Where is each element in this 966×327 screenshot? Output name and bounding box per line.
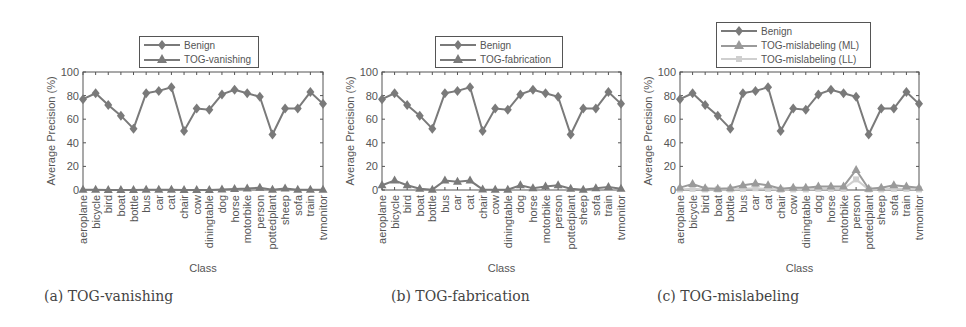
series-tog-fabrication	[378, 176, 626, 193]
y-tick-label: 80	[366, 90, 378, 102]
x-tick-label: horse	[229, 195, 241, 223]
x-tick-label: chair	[178, 195, 190, 219]
x-tick-label: bicycle	[90, 195, 102, 229]
y-tick-label: 60	[664, 113, 676, 125]
x-tick-label: bus	[737, 195, 749, 213]
x-tick-label: aeroplane	[376, 195, 388, 244]
y-tick-label: 100	[658, 66, 676, 78]
x-tick-label: cat	[165, 195, 177, 210]
y-tick-label: 80	[664, 90, 676, 102]
triangle-marker-icon	[144, 54, 180, 64]
x-tick-label: aeroplane	[674, 195, 686, 244]
x-tick-label: tvmonitor	[913, 195, 925, 241]
x-tick-label: sheep	[875, 195, 887, 225]
x-tick-label: diningtable	[502, 195, 514, 248]
legend-c: Benign TOG-mislabeling (ML) TOG-mislabel…	[716, 22, 871, 68]
axes: 020406080100aeroplanebicyclebirdboatbott…	[642, 66, 925, 274]
x-tick-label: pottedplant	[266, 195, 278, 249]
x-axis-label: Class	[488, 262, 516, 274]
x-tick-label: bus	[140, 195, 152, 213]
caption-c: (c) TOG-mislabeling	[657, 288, 799, 304]
x-tick-label: bottle	[128, 195, 140, 222]
x-tick-label: diningtable	[800, 195, 812, 248]
x-tick-label: motorbike	[241, 195, 253, 243]
panel-a: 020406080100aeroplanebicyclebirdboatbott…	[0, 0, 330, 327]
x-tick-label: bus	[439, 195, 451, 213]
y-axis-label: Average Precision (%)	[344, 76, 356, 185]
x-axis-label: Class	[786, 262, 814, 274]
x-tick-label: sofa	[888, 194, 900, 216]
diamond-marker-icon	[440, 40, 476, 50]
legend-b: Benign TOG-fabrication	[435, 36, 563, 68]
y-axis-label: Average Precision (%)	[45, 76, 57, 185]
x-tick-label: bird	[699, 195, 711, 213]
y-tick-label: 60	[366, 113, 378, 125]
diamond-marker-icon	[144, 40, 180, 50]
x-tick-label: chair	[775, 195, 787, 219]
x-tick-label: sofa	[292, 194, 304, 216]
series-benign	[378, 82, 625, 139]
x-tick-label: person	[850, 195, 862, 229]
x-tick-label: cat	[464, 195, 476, 210]
y-tick-label: 80	[67, 90, 79, 102]
x-tick-label: bird	[401, 195, 413, 213]
y-tick-label: 0	[670, 184, 676, 196]
x-tick-label: person	[254, 195, 266, 229]
x-tick-label: motorbike	[838, 195, 850, 243]
series-benign	[79, 82, 327, 139]
x-tick-label: train	[304, 195, 316, 216]
x-tick-label: horse	[527, 195, 539, 223]
y-tick-label: 20	[664, 160, 676, 172]
x-tick-label: dog	[812, 195, 824, 213]
square-marker-icon	[721, 54, 757, 64]
diamond-marker-icon	[721, 26, 757, 36]
x-tick-label: train	[900, 195, 912, 216]
y-tick-label: 60	[67, 113, 79, 125]
x-tick-label: motorbike	[540, 195, 552, 243]
x-tick-label: sheep	[279, 195, 291, 225]
x-tick-label: bottle	[426, 195, 438, 222]
x-tick-label: train	[602, 195, 614, 216]
legend-item-tog-mislabeling-ll: TOG-mislabeling (LL)	[721, 52, 866, 66]
legend-item-tog-mislabeling-ml: TOG-mislabeling (ML)	[721, 38, 866, 52]
series-tog-mislabeling-ml	[676, 165, 924, 192]
axes: 020406080100aeroplanebicyclebirdboatbott…	[344, 66, 627, 274]
y-tick-label: 100	[61, 66, 79, 78]
x-tick-label: bird	[102, 195, 114, 213]
x-tick-label: car	[749, 195, 761, 211]
triangle-marker-icon	[721, 40, 757, 50]
x-tick-label: dog	[216, 195, 228, 213]
x-tick-label: boat	[712, 195, 724, 216]
x-tick-label: bicycle	[389, 195, 401, 229]
x-tick-label: sofa	[590, 194, 602, 216]
x-tick-label: dog	[514, 195, 526, 213]
x-tick-label: cow	[191, 195, 203, 215]
x-tick-label: aeroplane	[77, 195, 89, 244]
x-axis-label: Class	[189, 262, 217, 274]
y-tick-label: 20	[67, 160, 79, 172]
caption-b: (b) TOG-fabrication	[391, 288, 530, 304]
x-tick-label: diningtable	[203, 195, 215, 248]
x-tick-label: cow	[787, 195, 799, 215]
x-tick-label: tvmonitor	[317, 195, 329, 241]
y-tick-label: 100	[360, 66, 378, 78]
y-tick-label: 0	[73, 184, 79, 196]
y-tick-label: 40	[664, 137, 676, 149]
y-tick-label: 40	[366, 137, 378, 149]
x-tick-label: car	[451, 195, 463, 211]
legend-item-tog-vanishing: TOG-vanishing	[144, 52, 254, 66]
x-tick-label: sheep	[577, 195, 589, 225]
caption-a: (a) TOG-vanishing	[44, 288, 173, 304]
x-tick-label: cat	[762, 195, 774, 210]
x-tick-label: chair	[477, 195, 489, 219]
y-axis-label: Average Precision (%)	[642, 76, 654, 185]
x-tick-label: bicycle	[687, 195, 699, 229]
x-tick-label: car	[153, 195, 165, 211]
y-tick-label: 40	[67, 137, 79, 149]
x-tick-label: bottle	[724, 195, 736, 222]
x-tick-label: boat	[115, 195, 127, 216]
legend-item-tog-fabrication: TOG-fabrication	[440, 52, 558, 66]
legend-item-benign: Benign	[440, 38, 558, 52]
legend-item-benign: Benign	[721, 24, 866, 38]
y-tick-label: 20	[366, 160, 378, 172]
